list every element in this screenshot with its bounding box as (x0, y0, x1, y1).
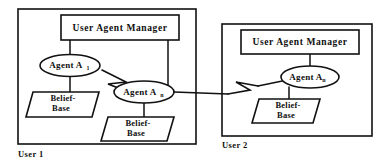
belief-base-2-line2: Base (127, 128, 145, 138)
diagram-canvas: User Agent Manager Agent A 1 Agent A n B… (0, 0, 385, 168)
belief-base-2-line1: Belief- (126, 118, 151, 128)
agent-an-label-user2: Agent A (289, 72, 323, 82)
agent-an-label-user1: Agent A (123, 87, 157, 97)
agent-a1-label: Agent A (49, 60, 83, 70)
belief-base-3-line1: Belief- (276, 100, 301, 110)
agent-a1-subscript: 1 (87, 65, 90, 71)
user-agent-manager-label-user2: User Agent Manager (252, 37, 347, 47)
belief-base-1-line1: Belief- (51, 93, 76, 103)
agent-architecture-diagram: User Agent Manager Agent A 1 Agent A n B… (0, 0, 385, 168)
panel-user2-caption: User 2 (222, 140, 248, 150)
user-agent-manager-label-user1: User Agent Manager (72, 23, 167, 33)
belief-base-1-line2: Base (52, 103, 70, 113)
belief-base-3-line2: Base (277, 110, 295, 120)
panel-user1-caption: User 1 (18, 149, 44, 159)
